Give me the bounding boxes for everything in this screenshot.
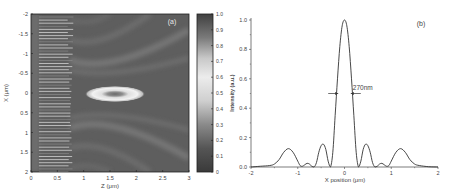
colorbar-tick-label: 0 (216, 169, 219, 175)
x-tick-label: 0 (343, 170, 346, 176)
line-x-label: X position (μm) (325, 177, 365, 183)
fwhm-label: 270nm (353, 84, 373, 91)
colorbar: 00.10.20.30.40.50.60.70.80.91.0 (197, 11, 223, 175)
heatmap-y-label: X (μm) (3, 84, 9, 102)
fwhm-annotation (328, 92, 361, 95)
figure: (a) 00.511.522.53 -2-1.5-1-0.500.511.52 … (0, 0, 450, 194)
y-tick-label: 0.4 (239, 105, 247, 111)
colorbar-gradient (197, 14, 213, 172)
panel-b-line-plot: -2-1012 0.00.20.40.60.81.0 270nm (b) X p… (229, 17, 440, 183)
y-tick-label: 1.0 (239, 17, 247, 23)
x-tick-label: 0 (29, 175, 32, 181)
y-tick-label: -0.5 (19, 70, 28, 76)
line-x-ticks: -2-1012 (249, 167, 440, 176)
y-tick-label: 0.2 (239, 135, 247, 141)
y-tick-label: 0.8 (239, 46, 247, 52)
y-tick-label: 0 (25, 90, 28, 96)
heatmap-x-label: Z (μm) (101, 183, 119, 189)
focal-spot (85, 86, 145, 102)
colorbar-tick-label: 0.3 (216, 122, 223, 128)
line-y-label: Intensity (a.u.) (229, 74, 235, 111)
x-tick-label: 0.5 (54, 175, 62, 181)
y-tick-label: 2 (25, 169, 28, 175)
colorbar-tick-label: 1.0 (216, 11, 223, 17)
intensity-curve (251, 20, 438, 167)
x-tick-label: 2.5 (159, 175, 167, 181)
x-tick-label: 2 (135, 175, 138, 181)
panel-a-heatmap: (a) 00.511.522.53 -2-1.5-1-0.500.511.52 … (3, 11, 191, 189)
colorbar-tick-label: 0.9 (216, 27, 223, 33)
y-tick-label: 1 (25, 130, 28, 136)
x-tick-label: 1 (82, 175, 85, 181)
y-tick-label: 0.6 (239, 76, 247, 82)
colorbar-tick-label: 0.4 (216, 106, 223, 112)
x-tick-label: -2 (249, 170, 254, 176)
x-tick-label: 1.5 (106, 175, 114, 181)
y-tick-label: -1.5 (19, 31, 28, 37)
panel-a-label: (a) (168, 18, 177, 26)
line-y-ticks: 0.00.20.40.60.81.0 (239, 17, 251, 170)
colorbar-tick-label: 0.1 (216, 153, 223, 159)
y-tick-label: -2 (23, 11, 28, 17)
x-tick-label: 1 (390, 170, 393, 176)
x-tick-label: 2 (436, 170, 439, 176)
x-tick-label: 3 (187, 175, 190, 181)
colorbar-tick-label: 0.5 (216, 90, 223, 96)
y-tick-label: -1 (23, 51, 28, 57)
colorbar-tick-label: 0.8 (216, 43, 223, 49)
y-tick-label: 0.0 (239, 164, 247, 170)
panel-b-label: (b) (417, 20, 426, 28)
colorbar-tick-label: 0.2 (216, 137, 223, 143)
colorbar-tick-label: 0.6 (216, 74, 223, 80)
x-tick-label: -1 (295, 170, 300, 176)
y-tick-label: 1.5 (20, 149, 28, 155)
y-tick-label: 0.5 (20, 110, 28, 116)
colorbar-tick-label: 0.7 (216, 58, 223, 64)
